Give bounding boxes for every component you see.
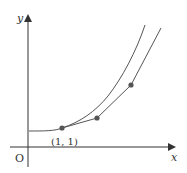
x-axis-label: x: [171, 151, 178, 164]
secant-polyline: [62, 28, 161, 128]
point-2: [94, 115, 99, 120]
point-label: (1, 1): [51, 136, 78, 147]
point-1-1: [59, 125, 64, 130]
origin-label: O: [15, 152, 24, 165]
y-axis-label: y: [16, 12, 24, 25]
function-curve: [29, 25, 145, 131]
point-3: [128, 82, 133, 87]
graph-diagram: y x O (1, 1): [0, 0, 187, 173]
